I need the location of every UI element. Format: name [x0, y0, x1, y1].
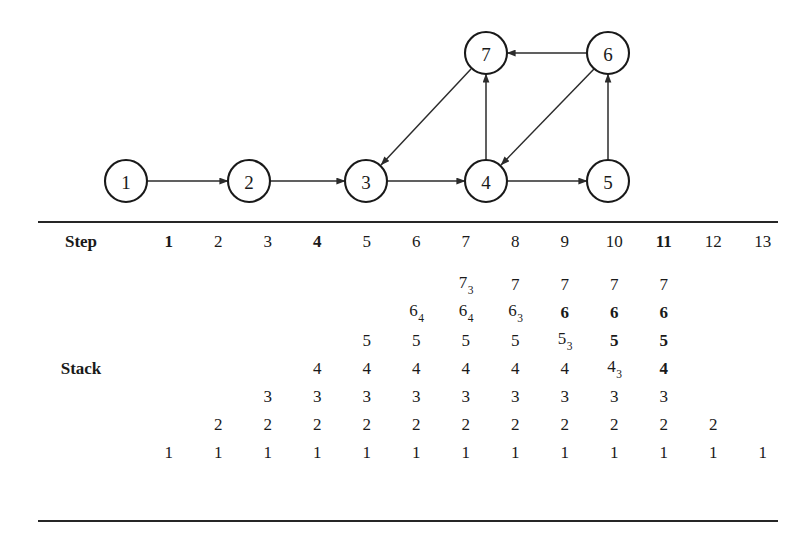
stack-cell-row-6-step-13 [738, 298, 788, 326]
stack-cell-row-2-step-7: 2 [441, 410, 491, 438]
stack-cell-row-3-step-5: 3 [342, 382, 392, 410]
stack-cell-row-5-step-12 [689, 326, 739, 354]
stack-cell-row-3-step-6: 3 [392, 382, 442, 410]
step-header-6: 6 [392, 226, 442, 256]
stack-cell-row-6-step-2 [194, 298, 244, 326]
stack-cell-row-5-step-9: 53 [540, 326, 590, 354]
stack-row-label-empty [38, 410, 124, 438]
node-label: 2 [244, 172, 254, 193]
row-label-spacer [124, 382, 144, 410]
stack-cell-row-1-step-7: 1 [441, 438, 491, 466]
stack-cell-row-6-step-5 [342, 298, 392, 326]
stack-cell-row-2-step-3: 2 [243, 410, 293, 438]
stack-cell-row-5-step-1 [144, 326, 194, 354]
stack-cell-row-6-step-11: 6 [639, 298, 689, 326]
step-header-13: 13 [738, 226, 788, 256]
stack-cell-row-3-step-10: 3 [590, 382, 640, 410]
stack-row-label: Stack [38, 354, 124, 382]
edge-7-to-3 [381, 69, 471, 165]
row-label-spacer [124, 438, 144, 466]
stack-cell-row-4-step-5: 4 [342, 354, 392, 382]
stack-cell-row-7-step-13 [738, 270, 788, 298]
stack-cell-row-5-step-3 [243, 326, 293, 354]
stack-cell-row-4-step-9: 4 [540, 354, 590, 382]
stack-cell-row-2-step-13 [738, 410, 788, 438]
stack-cell-row-5-step-7: 5 [441, 326, 491, 354]
stack-cell-row-2-step-5: 2 [342, 410, 392, 438]
stack-cell-row-3-step-7: 3 [441, 382, 491, 410]
row-label-spacer [124, 298, 144, 326]
stack-cell-row-1-step-4: 1 [293, 438, 343, 466]
stack-cell-subscript: 3 [567, 340, 573, 352]
table-top-rule [38, 221, 778, 223]
node-label: 5 [603, 172, 613, 193]
header-gap-row [38, 256, 788, 270]
row-label-spacer [124, 354, 144, 382]
edge-6-to-4 [501, 69, 594, 165]
stack-cell-row-6-step-10: 6 [590, 298, 640, 326]
graph-figure: 1 2 3 4 5 6 7 [0, 0, 810, 218]
stack-cell-row-1-step-5: 1 [342, 438, 392, 466]
stack-row-label-empty [38, 438, 124, 466]
stack-cell-row-1-step-12: 1 [689, 438, 739, 466]
step-header-3: 3 [243, 226, 293, 256]
stack-row-1: 1111111111111 [38, 438, 788, 466]
stack-cell-row-7-step-10: 7 [590, 270, 640, 298]
graph-nodes: 1 2 3 4 5 6 7 [105, 32, 629, 202]
stack-cell-row-1-step-3: 1 [243, 438, 293, 466]
graph-node-3[interactable]: 3 [345, 160, 387, 202]
stack-cell-row-5-step-13 [738, 326, 788, 354]
stack-cell-row-5-step-11: 5 [639, 326, 689, 354]
graph-node-6[interactable]: 6 [587, 32, 629, 74]
stack-row-6: 646463666 [38, 298, 788, 326]
stack-cell-row-4-step-12 [689, 354, 739, 382]
stack-cell-row-7-step-5 [342, 270, 392, 298]
stack-cell-subscript: 4 [468, 312, 474, 324]
row-label-spacer [124, 326, 144, 354]
stack-cell-row-3-step-3: 3 [243, 382, 293, 410]
node-label: 3 [361, 172, 371, 193]
step-header-5: 5 [342, 226, 392, 256]
stack-cell-row-6-step-6: 64 [392, 298, 442, 326]
stack-cell-row-5-step-4 [293, 326, 343, 354]
stack-cell-row-3-step-11: 3 [639, 382, 689, 410]
stack-cell-row-7-step-11: 7 [639, 270, 689, 298]
stack-cell-row-2-step-11: 2 [639, 410, 689, 438]
stack-cell-row-7-step-4 [293, 270, 343, 298]
graph-node-4[interactable]: 4 [465, 160, 507, 202]
stack-cell-row-5-step-2 [194, 326, 244, 354]
step-header-12: 12 [689, 226, 739, 256]
stack-cell-row-2-step-8: 2 [491, 410, 541, 438]
step-header-9: 9 [540, 226, 590, 256]
step-header-11: 11 [639, 226, 689, 256]
stack-cell-row-7-step-2 [194, 270, 244, 298]
stack-cell-row-5-step-8: 5 [491, 326, 541, 354]
stack-cell-row-3-step-1 [144, 382, 194, 410]
stack-cell-row-2-step-12: 2 [689, 410, 739, 438]
stack-cell-row-1-step-6: 1 [392, 438, 442, 466]
stack-cell-row-2-step-9: 2 [540, 410, 590, 438]
graph-canvas: 1 2 3 4 5 6 7 [0, 0, 810, 218]
stack-cell-row-7-step-3 [243, 270, 293, 298]
stack-row-4: Stack444444434 [38, 354, 788, 382]
stack-cell-row-6-step-8: 63 [491, 298, 541, 326]
graph-node-2[interactable]: 2 [228, 160, 270, 202]
stack-cell-row-4-step-7: 4 [441, 354, 491, 382]
step-header-2: 2 [194, 226, 244, 256]
stack-cell-row-5-step-10: 5 [590, 326, 640, 354]
stack-cell-row-2-step-6: 2 [392, 410, 442, 438]
graph-node-7[interactable]: 7 [465, 32, 507, 74]
stack-cell-row-1-step-11: 1 [639, 438, 689, 466]
graph-node-1[interactable]: 1 [105, 160, 147, 202]
stack-cell-row-1-step-2: 1 [194, 438, 244, 466]
graph-node-5[interactable]: 5 [587, 160, 629, 202]
stack-cell-row-1-step-9: 1 [540, 438, 590, 466]
stack-cell-row-2-step-1 [144, 410, 194, 438]
stack-cell-row-7-step-9: 7 [540, 270, 590, 298]
stack-cell-row-3-step-4: 3 [293, 382, 343, 410]
stack-row-5: 55555355 [38, 326, 788, 354]
stack-row-label-empty [38, 270, 124, 298]
stack-cell-row-5-step-5: 5 [342, 326, 392, 354]
node-label: 4 [481, 172, 491, 193]
table-bottom-rule [38, 520, 778, 522]
